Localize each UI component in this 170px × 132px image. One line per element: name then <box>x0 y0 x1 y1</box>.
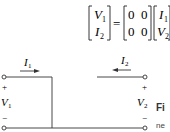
svg-text:2: 2 <box>144 102 148 110</box>
caption-fig: Fi <box>156 102 165 113</box>
terminal-top-left <box>2 75 6 79</box>
arrow-i2-icon <box>112 68 131 72</box>
plus-v1: + <box>2 82 7 92</box>
svg-text:0: 0 <box>141 7 148 22</box>
terminal-bottom-left <box>2 126 6 130</box>
svg-text:1: 1 <box>8 102 12 110</box>
svg-text:1: 1 <box>28 62 32 70</box>
terminal-bottom-right <box>143 126 147 130</box>
svg-text:2: 2 <box>100 32 104 41</box>
plus-v2: + <box>142 82 147 92</box>
caption-text: ne <box>156 121 165 130</box>
svg-text:1: 1 <box>102 15 106 24</box>
equals-sign: = <box>113 16 120 31</box>
circuit-diagram <box>2 75 147 130</box>
svg-text:0: 0 <box>128 7 135 22</box>
svg-text:1: 1 <box>164 15 168 24</box>
svg-text:0: 0 <box>128 24 135 39</box>
minus-v2: − <box>142 113 147 123</box>
terminal-top-right <box>143 75 147 79</box>
svg-text:0: 0 <box>141 24 148 39</box>
figure-canvas: V 1 I 2 = 0 0 0 0 I 1 V 2 <box>0 0 170 132</box>
svg-text:2: 2 <box>125 60 129 68</box>
minus-v1: − <box>2 113 7 123</box>
matrix-equation: V 1 I 2 = 0 0 0 0 I 1 V 2 <box>89 6 170 41</box>
